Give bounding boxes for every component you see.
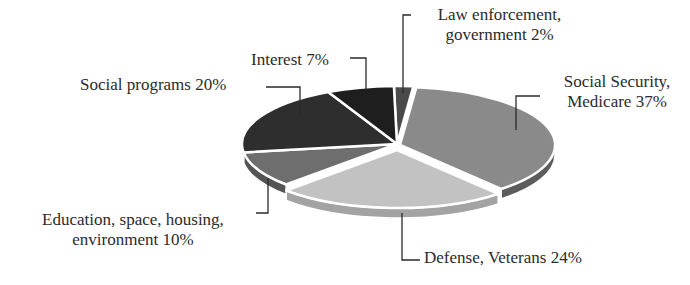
leader-line: [402, 213, 420, 260]
label-interest: Interest 7%: [251, 50, 329, 70]
label-line: environment 10%: [18, 230, 248, 250]
label-line: Social programs 20%: [80, 75, 226, 95]
label-line: Interest 7%: [251, 50, 329, 70]
label-defense: Defense, Veterans 24%: [424, 248, 582, 268]
label-law-enforcement: Law enforcement, government 2%: [412, 5, 587, 45]
label-social-security: Social Security, Medicare 37%: [547, 72, 687, 112]
label-education: Education, space, housing, environment 1…: [18, 210, 248, 250]
label-line: Law enforcement,: [412, 5, 587, 25]
label-line: Medicare 37%: [547, 92, 687, 112]
label-line: Education, space, housing,: [18, 210, 248, 230]
label-line: Social Security,: [547, 72, 687, 92]
label-line: Defense, Veterans 24%: [424, 248, 582, 268]
label-social-programs: Social programs 20%: [80, 75, 226, 95]
leader-line: [403, 15, 411, 93]
label-line: government 2%: [412, 25, 587, 45]
leader-line: [350, 58, 366, 90]
